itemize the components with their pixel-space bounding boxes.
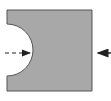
notched-block	[7, 10, 92, 91]
diagram-canvas	[0, 0, 111, 101]
